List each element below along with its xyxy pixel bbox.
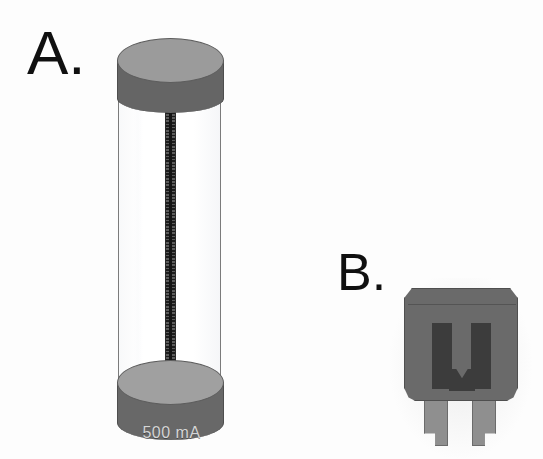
filament-core-wire [169,90,172,406]
glass-highlight [133,76,143,402]
housing-seam-line [408,304,516,305]
panel-label-a: A. [27,22,86,84]
v-notch-fuse-element [449,369,475,391]
left-blade-terminal [424,398,448,446]
glass-cartridge-fuse-illustration: 500 mA [117,30,224,450]
bottom-end-cap-face [117,360,224,405]
bottom-end-cap: 500 mA [117,360,224,450]
right-blade-terminal [472,398,496,446]
top-end-cap [117,38,224,122]
blade-fuse-illustration [404,288,518,446]
fuse-rating-text: 500 mA [118,424,225,442]
top-end-cap-face [117,38,224,83]
panel-label-b: B. [337,246,386,298]
figure-canvas: A. 500 mA B. [0,0,543,459]
blade-fuse-housing [404,288,518,401]
